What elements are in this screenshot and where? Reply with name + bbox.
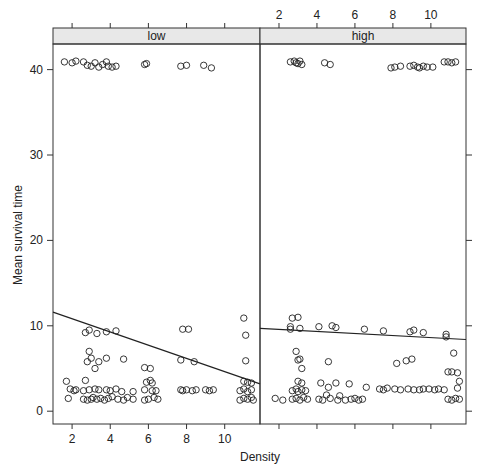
data-point (272, 395, 278, 401)
x-axis-title: Density (240, 450, 280, 464)
data-point (327, 395, 333, 401)
data-point (103, 355, 109, 361)
data-point (293, 348, 299, 354)
lattice-scatter-chart: Mean survival time Density low high 2468… (0, 0, 481, 473)
data-point (318, 380, 324, 386)
data-point (445, 369, 451, 375)
data-point (361, 326, 367, 332)
data-point (293, 395, 299, 401)
data-point (241, 315, 247, 321)
data-point (299, 365, 305, 371)
points-high (272, 58, 463, 403)
data-point (456, 396, 462, 402)
data-point (151, 394, 157, 400)
data-point (88, 63, 94, 69)
data-point (113, 63, 119, 69)
data-point (299, 380, 305, 386)
data-point (96, 359, 102, 365)
data-point (295, 378, 301, 384)
data-point (88, 355, 94, 361)
x-axis-top-high: 246810 (72, 8, 438, 28)
x-tick-label: 4 (314, 8, 321, 22)
data-point (302, 388, 308, 394)
data-point (94, 330, 100, 336)
data-point (384, 385, 390, 391)
y-axis-title: Mean survival time (11, 185, 25, 285)
fit-line-low (53, 312, 260, 384)
data-point (141, 387, 147, 393)
x-tick-label: 8 (183, 432, 190, 446)
data-point (155, 396, 161, 402)
strip-label-low: low (147, 29, 165, 43)
data-point (346, 381, 352, 387)
x-tick-label: 4 (107, 432, 114, 446)
data-point (327, 61, 333, 67)
points-low (61, 58, 256, 403)
x-tick-label: 10 (424, 8, 438, 22)
x-tick-label: 6 (352, 8, 359, 22)
data-point (411, 327, 417, 333)
data-point (441, 59, 447, 65)
data-point (130, 388, 136, 394)
data-point (297, 356, 303, 362)
x-tick-label: 2 (69, 432, 76, 446)
data-point (92, 60, 98, 66)
plot-area-high (260, 44, 466, 424)
data-point (316, 324, 322, 330)
data-point (84, 359, 90, 365)
data-point (153, 388, 159, 394)
x-axis-bottom-low: 246810 (69, 424, 431, 446)
data-point (333, 324, 339, 330)
y-tick-label: 30 (30, 148, 44, 162)
y-axis-left: 010203040 (30, 63, 53, 419)
data-point (454, 385, 460, 391)
data-point (61, 59, 67, 65)
data-point (456, 378, 462, 384)
data-point (451, 350, 457, 356)
data-point (237, 388, 243, 394)
plot-area-low (53, 44, 260, 424)
data-point (86, 348, 92, 354)
strip-label-high: high (352, 29, 375, 43)
data-point (82, 377, 88, 383)
data-point (449, 397, 455, 403)
data-point (363, 384, 369, 390)
y-tick-label: 40 (30, 63, 44, 77)
data-point (143, 60, 149, 66)
data-point (243, 358, 249, 364)
y-tick-label: 0 (36, 404, 43, 418)
data-point (304, 396, 310, 402)
data-point (380, 387, 386, 393)
data-point (96, 387, 102, 393)
data-point (210, 387, 216, 393)
data-point (325, 384, 331, 390)
data-point (92, 365, 98, 371)
panel-low: low (53, 28, 260, 424)
data-point (280, 397, 286, 403)
data-point (119, 388, 125, 394)
data-point (248, 387, 254, 393)
data-point (407, 329, 413, 335)
y-tick-label: 10 (30, 319, 44, 333)
x-tick-label: 8 (390, 8, 397, 22)
data-point (193, 387, 199, 393)
fit-line-high (260, 328, 466, 339)
data-point (359, 396, 365, 402)
data-point (237, 397, 243, 403)
data-point (420, 329, 426, 335)
data-point (452, 59, 458, 65)
data-point (73, 58, 79, 64)
data-point (149, 388, 155, 394)
x-tick-label: 6 (145, 432, 152, 446)
data-point (352, 395, 358, 401)
data-point (380, 328, 386, 334)
data-point (65, 395, 71, 401)
data-point (320, 397, 326, 403)
data-point (333, 380, 339, 386)
x-tick-label: 10 (218, 432, 232, 446)
data-point (63, 378, 69, 384)
data-point (120, 356, 126, 362)
data-point (208, 65, 214, 71)
panel-high: high (260, 28, 466, 424)
data-point (80, 59, 86, 65)
